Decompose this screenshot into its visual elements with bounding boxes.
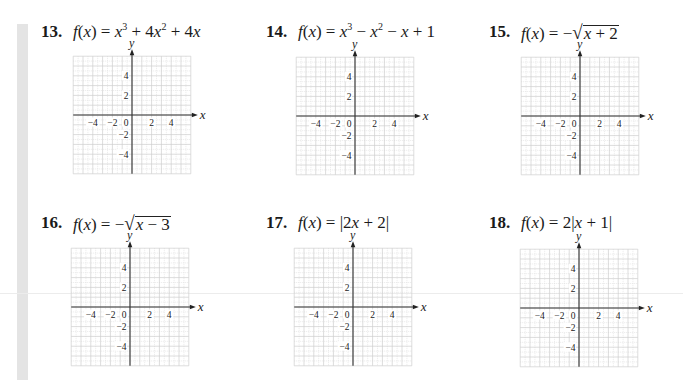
equation-rhs: x3 − x2 − x + 1 (340, 22, 435, 41)
tick-label-bg (564, 323, 576, 333)
x-tick-label: 2 (372, 119, 377, 129)
tick-label-bg (122, 118, 130, 127)
tick-label-bg (569, 264, 576, 274)
equation-lhs: f(x) = (73, 22, 115, 41)
tick-label-bg (338, 341, 350, 351)
equation-rhs: |2x + 2| (340, 213, 389, 232)
tick-label-bg (120, 282, 127, 292)
y-tick-label: −4 (339, 342, 349, 352)
scan-artifact-line (0, 293, 683, 294)
tick-label-bg (340, 131, 352, 141)
y-tick-label: −2 (566, 131, 576, 141)
coordinate-grid[interactable]: xy−4−202442−2−4 (0, 0, 683, 380)
tick-label-bg (309, 119, 322, 128)
x-tick-label: 2 (597, 119, 602, 129)
tick-label-bg (329, 119, 342, 128)
x-tick-label: 4 (390, 310, 395, 320)
tick-label-bg (345, 72, 352, 82)
tick-label-bg (120, 263, 127, 273)
tick-label-bg (148, 118, 156, 127)
x-tick-label: −4 (86, 310, 96, 320)
tick-label-bg (553, 311, 566, 320)
x-axis-label: x (646, 300, 653, 315)
tick-label-bg (369, 310, 377, 319)
problem-number: 13. (41, 22, 62, 42)
x-tick-label: 0 (572, 119, 577, 129)
coordinate-grid[interactable]: xy−4−202442−2−4 (0, 0, 683, 380)
x-tick-label: 4 (167, 310, 172, 320)
x-axis-label: x (199, 107, 206, 122)
problem-number: 16. (41, 213, 62, 233)
problem-number: 14. (266, 22, 287, 42)
tick-label-bg (338, 322, 350, 332)
x-tick-label: 0 (122, 310, 127, 320)
y-axis-arrow-icon (351, 241, 356, 247)
tick-label-bg (564, 342, 576, 352)
tick-label-bg (84, 310, 97, 319)
y-tick-label: −4 (116, 342, 126, 352)
y-axis-arrow-icon (578, 50, 583, 56)
function-equation: f(x) = −√x + 2 (521, 22, 619, 44)
function-equation: f(x) = |2x + 2| (298, 213, 389, 233)
tick-label-bg (343, 310, 351, 319)
equation-rhs: 2|x + 1| (563, 213, 612, 232)
tick-label-bg (570, 119, 578, 128)
x-tick-label: −2 (107, 118, 117, 128)
function-equation: f(x) = x3 + 4x2 + 4x (73, 22, 201, 42)
tick-label-bg (533, 311, 546, 320)
x-tick-label: 2 (147, 310, 152, 320)
coordinate-grid[interactable]: xy−4−202442−2−4 (0, 0, 683, 380)
x-axis-label: x (647, 108, 654, 123)
coordinate-grid[interactable]: xy−4−202442−2−4 (0, 0, 683, 380)
tick-label-bg (569, 311, 577, 320)
coordinate-grid[interactable]: xy−4−202442−2−4 (0, 0, 683, 380)
tick-label-bg (343, 282, 350, 292)
x-tick-label: 2 (149, 118, 154, 128)
tick-label-bg (596, 119, 604, 128)
function-equation: f(x) = −√x − 3 (73, 213, 171, 235)
tick-label-bg (595, 311, 603, 320)
x-tick-label: 4 (169, 118, 174, 128)
tick-label-bg (388, 310, 396, 319)
tick-label-bg (106, 118, 119, 127)
tick-label-bg (340, 150, 352, 160)
equation-rhs: x3 + 4x2 + 4x (115, 22, 201, 41)
tick-label-bg (345, 119, 353, 128)
y-axis-arrow-icon (353, 50, 358, 56)
y-tick-label: 4 (124, 71, 129, 81)
x-tick-label: −2 (555, 119, 565, 129)
problem-number: 18. (489, 213, 510, 233)
equation-lhs: f(x) = (521, 24, 563, 43)
y-tick-label: 2 (572, 92, 577, 102)
y-tick-label: 4 (345, 263, 350, 273)
x-tick-label: 2 (370, 310, 375, 320)
y-tick-label: 2 (347, 92, 352, 102)
tick-label-bg (117, 130, 129, 140)
x-tick-label: 4 (392, 119, 397, 129)
tick-label-bg (115, 341, 127, 351)
y-tick-label: −2 (341, 131, 351, 141)
tick-label-bg (390, 119, 398, 128)
x-axis-label: x (420, 299, 427, 314)
y-tick-label: −4 (341, 151, 351, 161)
tick-label-bg (146, 310, 154, 319)
equation-lhs: f(x) = (521, 213, 563, 232)
function-equation: f(x) = x3 − x2 − x + 1 (298, 22, 435, 42)
tick-label-bg (345, 91, 352, 101)
y-tick-label: −2 (339, 322, 349, 332)
x-axis-arrow-icon (190, 305, 196, 310)
y-tick-label: −4 (118, 150, 128, 160)
x-tick-label: 0 (345, 310, 350, 320)
tick-label-bg (120, 310, 128, 319)
tick-label-bg (167, 118, 175, 127)
y-axis-arrow-icon (130, 49, 135, 55)
tick-label-bg (122, 71, 129, 81)
page-margin-bar (17, 24, 28, 380)
equation-lhs: f(x) = (73, 215, 115, 234)
equation-lhs: f(x) = (298, 22, 340, 41)
tick-label-bg (122, 90, 129, 100)
x-axis-label: x (197, 299, 204, 314)
x-tick-label: 0 (347, 119, 352, 129)
coordinate-grid[interactable]: xy−4−202442−2−4 (0, 0, 683, 380)
x-tick-label: −4 (536, 119, 546, 129)
